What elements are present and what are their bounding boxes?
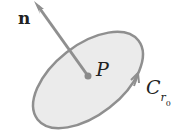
curve-label-subsub: 0 <box>166 99 171 108</box>
point-p-dot <box>85 73 92 80</box>
diagram-canvas: n P Cr0 <box>0 0 179 140</box>
curve-label-main: C <box>146 76 161 98</box>
normal-label: n <box>18 8 30 28</box>
point-label: P <box>96 58 109 80</box>
curve-label: Cr0 <box>146 76 171 104</box>
